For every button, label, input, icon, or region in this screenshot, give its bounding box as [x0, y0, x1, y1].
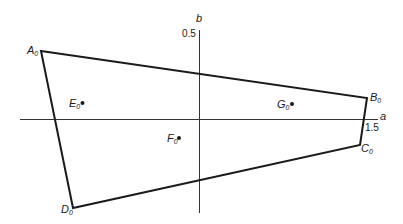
- b-axis-label: b: [196, 12, 202, 24]
- vertex-B-label: B0: [370, 91, 381, 104]
- point-F-label: F0: [167, 132, 178, 145]
- a-tick-label: 1.5: [365, 122, 379, 133]
- quadrilateral-ABCD: [41, 51, 367, 208]
- point-E-label: E0: [69, 97, 80, 110]
- vertex-D-label: D0: [61, 203, 73, 216]
- point-E-dot: [81, 101, 85, 105]
- b-tick-label: 0.5: [182, 28, 196, 39]
- vertex-C-label: C0: [361, 142, 373, 155]
- point-G-label: G0: [277, 98, 290, 111]
- diagram-svg: b 0.5 a 1.5 A0 B0 C0 D0 E0 F0 G0: [0, 0, 403, 224]
- point-G-dot: [290, 102, 294, 106]
- diagram-canvas: b 0.5 a 1.5 A0 B0 C0 D0 E0 F0 G0: [0, 0, 403, 224]
- vertex-A-label: A0: [26, 44, 38, 57]
- a-axis-label: a: [380, 110, 386, 122]
